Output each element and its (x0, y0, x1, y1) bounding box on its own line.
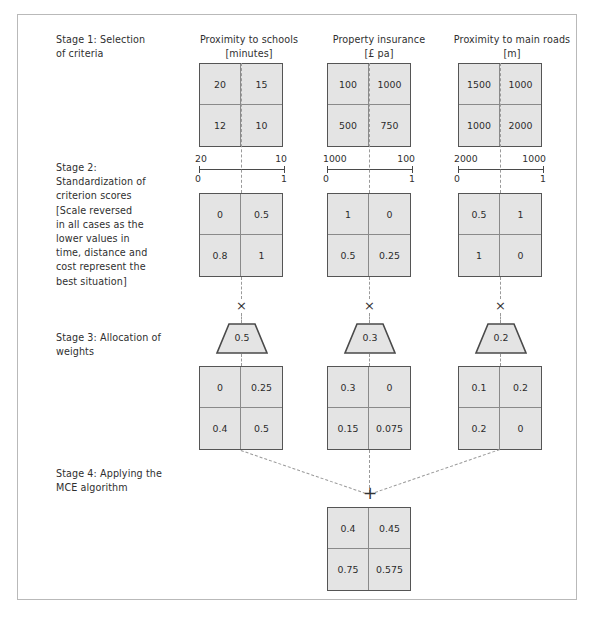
column-header-schools: Proximity to schools [minutes] (181, 33, 317, 60)
scale-bar (458, 166, 544, 173)
matrix-cell: 0 (200, 194, 241, 235)
matrix-cell: 0.5 (241, 194, 282, 235)
dashed-connector (500, 313, 501, 323)
dashed-connector-right (375, 449, 500, 493)
matrix-cell: 1000 (459, 105, 500, 146)
scale-raw-max: 100 (397, 153, 415, 164)
matrix-cell: 0.2 (459, 408, 500, 449)
weight-value: 0.5 (215, 332, 269, 343)
scale-insurance: 1000 100 0 1 (327, 153, 413, 185)
stage-4-label: Stage 4: Applying the MCE algorithm (56, 467, 216, 495)
column-header-roads: Proximity to main roads [m] (439, 33, 585, 60)
dashed-connector (369, 63, 370, 193)
scale-std-max: 1 (409, 173, 415, 184)
dashed-connector (241, 313, 242, 323)
column-header-insurance: Property insurance [£ pa] (311, 33, 447, 60)
matrix-cell: 0.5 (459, 194, 500, 235)
matrix-cell: 1 (500, 194, 541, 235)
scale-std-min: 0 (195, 173, 201, 184)
weight-shape-schools: 0.5 (215, 323, 269, 354)
matrix-cell: 0.4 (328, 508, 369, 549)
matrix-cell: 0.45 (369, 508, 410, 549)
matrix-cell: 0.075 (369, 408, 410, 449)
add-icon: + (363, 485, 377, 502)
dashed-connector (500, 277, 501, 299)
matrix-cell: 0 (369, 367, 410, 408)
scale-raw-min: 2000 (454, 153, 478, 164)
dashed-connector (241, 277, 242, 299)
dashed-connector (500, 63, 501, 193)
matrix-cell: 0.25 (241, 367, 282, 408)
weight-shape-insurance: 0.3 (343, 323, 397, 354)
matrix-cell: 12 (200, 105, 241, 146)
matrix-cell: 750 (369, 105, 410, 146)
matrix-cell: 0.75 (328, 549, 369, 590)
matrix-cell: 0 (500, 408, 541, 449)
matrix-cell: 1000 (369, 64, 410, 105)
matrix-cell: 0 (200, 367, 241, 408)
matrix-cell: 1 (241, 235, 282, 276)
matrix-cell: 0.3 (328, 367, 369, 408)
scale-std-min: 0 (454, 173, 460, 184)
multiply-icon: × (495, 299, 506, 312)
multiply-icon: × (236, 299, 247, 312)
scale-raw-max: 10 (275, 153, 287, 164)
matrix-cell: 0 (500, 235, 541, 276)
multiply-icon: × (364, 299, 375, 312)
weighted-matrix-insurance: 0.3 0 0.15 0.075 (327, 366, 411, 450)
matrix-cell: 0.8 (200, 235, 241, 276)
matrix-cell: 0.575 (369, 549, 410, 590)
matrix-cell: 0.4 (200, 408, 241, 449)
matrix-cell: 1 (459, 235, 500, 276)
matrix-cell: 0.1 (459, 367, 500, 408)
matrix-cell: 0.15 (328, 408, 369, 449)
matrix-cell: 2000 (500, 105, 541, 146)
scale-roads: 2000 1000 0 1 (458, 153, 544, 185)
dashed-connector (369, 313, 370, 323)
matrix-cell: 20 (200, 64, 241, 105)
scale-raw-min: 20 (195, 153, 207, 164)
matrix-cell: 1500 (459, 64, 500, 105)
dashed-connector (500, 354, 501, 366)
scale-schools: 20 10 0 1 (199, 153, 285, 185)
scale-bar (199, 166, 285, 173)
result-matrix: 0.4 0.45 0.75 0.575 (327, 507, 411, 591)
standardized-matrix-insurance: 1 0 0.5 0.25 (327, 193, 411, 277)
stage-3-label: Stage 3: Allocation of weights (56, 331, 206, 359)
matrix-cell: 0.5 (328, 235, 369, 276)
matrix-cell: 1 (328, 194, 369, 235)
matrix-cell: 100 (328, 64, 369, 105)
figure-frame: Stage 1: Selection of criteria Stage 2: … (17, 14, 577, 600)
scale-bar (327, 166, 413, 173)
dashed-connector (241, 354, 242, 366)
matrix-cell: 1000 (500, 64, 541, 105)
scale-std-max: 1 (540, 173, 546, 184)
scale-raw-min: 1000 (323, 153, 347, 164)
standardized-matrix-schools: 0 0.5 0.8 1 (199, 193, 283, 277)
matrix-cell: 0.25 (369, 235, 410, 276)
matrix-cell: 0.5 (241, 408, 282, 449)
matrix-cell: 500 (328, 105, 369, 146)
weight-value: 0.3 (343, 332, 397, 343)
weighted-matrix-schools: 0 0.25 0.4 0.5 (199, 366, 283, 450)
dashed-connector (369, 354, 370, 366)
weight-shape-roads: 0.2 (474, 323, 528, 354)
weight-value: 0.2 (474, 332, 528, 343)
dashed-connector-left (241, 450, 366, 494)
matrix-cell: 0.2 (500, 367, 541, 408)
standardized-matrix-roads: 0.5 1 1 0 (458, 193, 542, 277)
dashed-connector (369, 277, 370, 299)
matrix-cell: 15 (241, 64, 282, 105)
scale-std-min: 0 (323, 173, 329, 184)
scale-std-max: 1 (281, 173, 287, 184)
weighted-matrix-roads: 0.1 0.2 0.2 0 (458, 366, 542, 450)
matrix-cell: 10 (241, 105, 282, 146)
stage-2-label: Stage 2: Standardization of criterion sc… (56, 161, 208, 289)
dashed-connector (241, 63, 242, 193)
scale-raw-max: 1000 (522, 153, 546, 164)
matrix-cell: 0 (369, 194, 410, 235)
